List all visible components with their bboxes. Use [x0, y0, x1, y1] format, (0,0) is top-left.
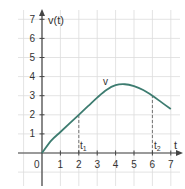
y-tick-label: 6 — [29, 33, 35, 44]
curve-label: v — [103, 76, 108, 87]
y-axis-arrow-icon — [39, 9, 45, 16]
t1-subscript: 1 — [83, 145, 87, 152]
x-tick-label: 5 — [131, 159, 137, 170]
y-tick-label: 3 — [29, 90, 35, 101]
x-tick-label: 7 — [168, 159, 174, 170]
t1-label: t1 — [80, 140, 87, 152]
y-tick-label: 7 — [29, 14, 35, 25]
y-tick-label: 1 — [29, 128, 35, 139]
chart-canvas: 12345671234567 v(t) t 0 v t1 t2 — [0, 0, 185, 189]
t2-label: t2 — [154, 140, 161, 152]
velocity-curve — [42, 84, 171, 153]
y-tick-label: 5 — [29, 52, 35, 63]
x-tick-label: 2 — [76, 159, 82, 170]
x-tick-label: 1 — [58, 159, 64, 170]
y-tick-label: 2 — [29, 109, 35, 120]
y-axis-label: v(t) — [48, 14, 64, 26]
x-tick-label: 4 — [113, 159, 119, 170]
t2-subscript: 2 — [157, 145, 161, 152]
x-axis-label: t — [174, 139, 177, 151]
velocity-chart: 12345671234567 v(t) t 0 v t1 t2 — [0, 0, 185, 189]
y-tick-label: 4 — [29, 71, 35, 82]
x-tick-label: 6 — [150, 159, 156, 170]
origin-label: 0 — [34, 159, 40, 170]
x-tick-label: 3 — [94, 159, 100, 170]
axes — [18, 9, 183, 186]
